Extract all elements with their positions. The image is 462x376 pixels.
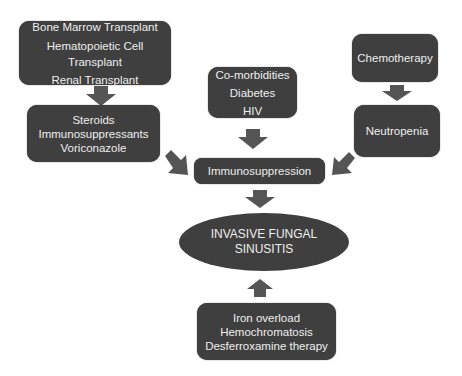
node-transplant: Bone Marrow Transplant Hematopoietic Cel… — [19, 21, 171, 85]
node-drugs-line-1: Steroids — [72, 113, 114, 127]
node-transplant-line-4: Renal Transplant — [52, 73, 139, 87]
node-transplant-line-3: Transplant — [68, 55, 122, 69]
node-comorbidities-line-3: HIV — [243, 104, 262, 118]
arrow-diagonal-icon — [331, 152, 357, 176]
node-transplant-line-2: Hematopoietic Cell — [47, 39, 144, 53]
node-comorbidities-line-2: Diabetes — [230, 86, 275, 100]
node-neutropenia-label: Neutropenia — [366, 124, 429, 138]
node-comorbidities-line-1: Co-morbidities — [215, 68, 289, 82]
arrow-down-icon — [244, 190, 276, 208]
arrow-down-icon — [381, 85, 413, 101]
node-drugs-line-3: Voriconazole — [61, 141, 127, 155]
node-neutropenia: Neutropenia — [354, 105, 440, 157]
node-transplant-line-1: Bone Marrow Transplant — [32, 20, 157, 34]
node-comorbidities: Co-morbidities Diabetes HIV — [208, 67, 297, 118]
node-immunosuppression: Immunosuppression — [194, 158, 325, 184]
node-outcome-line-1: INVASIVE FUNGAL — [211, 227, 317, 242]
node-iron-line-3: Desferroxamine therapy — [205, 339, 328, 353]
node-drugs: Steroids Immunosuppressants Voriconazole — [27, 105, 160, 162]
node-iron-line-1: Iron overload — [233, 311, 300, 325]
arrow-down-icon — [85, 86, 117, 106]
arrow-up-icon — [246, 279, 274, 297]
arrow-down-icon — [237, 129, 269, 149]
node-iron-overload: Iron overload Hemochromatosis Desferroxa… — [197, 303, 336, 360]
arrow-diagonal-icon — [163, 150, 189, 176]
node-immunosuppression-label: Immunosuppression — [208, 164, 312, 178]
node-outcome-line-2: SINUSITIS — [235, 242, 294, 257]
node-iron-line-2: Hemochromatosis — [220, 325, 313, 339]
node-chemotherapy-label: Chemotherapy — [357, 51, 432, 65]
node-invasive-fungal-sinusitis: INVASIVE FUNGAL SINUSITIS — [179, 213, 349, 271]
node-chemotherapy: Chemotherapy — [352, 34, 438, 82]
node-drugs-line-2: Immunosuppressants — [39, 127, 149, 141]
